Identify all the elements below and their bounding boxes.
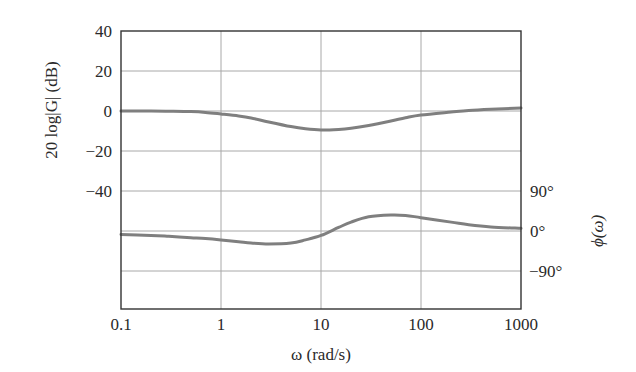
right-tick-label: −90°	[529, 262, 562, 281]
left-tick-label: 0	[104, 102, 113, 121]
x-axis-title: ω (rad/s)	[291, 345, 351, 364]
left-tick-label: 20	[95, 62, 112, 81]
right-axis-ticks: 90°0°−90°	[529, 182, 562, 281]
right-tick-label: 0°	[530, 222, 545, 241]
x-tick-label: 10	[313, 315, 330, 334]
x-tick-label: 1	[217, 315, 226, 334]
left-axis-title: 20 log|G| (dB)	[42, 61, 61, 158]
x-tick-label: 0.1	[110, 315, 131, 334]
right-axis-title: ϕ(ω)	[588, 215, 607, 247]
x-tick-label: 100	[408, 315, 434, 334]
right-tick-label: 90°	[530, 182, 554, 201]
left-tick-label: −40	[85, 182, 112, 201]
bode-plot: 0.11101001000 40200−20−40 90°0°−90° ω (r…	[0, 0, 636, 372]
left-tick-label: 40	[95, 22, 112, 41]
left-axis-ticks: 40200−20−40	[85, 22, 112, 201]
x-axis-ticks: 0.11101001000	[110, 315, 538, 334]
left-tick-label: −20	[85, 142, 112, 161]
grid-lines	[121, 31, 521, 309]
x-tick-label: 1000	[504, 315, 538, 334]
